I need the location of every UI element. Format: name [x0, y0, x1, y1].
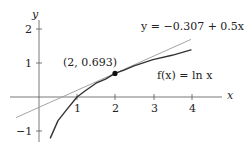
x-axis-label: x [227, 89, 234, 102]
tangent-equation-label: y = −0.307 + 0.5x [140, 20, 245, 33]
curve-label: f(x) = ln x [157, 69, 213, 82]
tangent-line-chart: 1 2 3 4 2 1 −1 x y (2, 0.693) y = −0.307… [0, 0, 246, 146]
x-tick-label-3: 3 [151, 102, 158, 115]
y-tick-label-2: 2 [25, 23, 32, 36]
y-tick-label-1: 1 [25, 57, 32, 70]
x-tick-label-1: 1 [74, 102, 81, 115]
point-label: (2, 0.693) [63, 56, 117, 69]
y-axis-label: y [31, 8, 39, 21]
x-tick-label-4: 4 [189, 102, 196, 115]
x-tick-label-2: 2 [112, 102, 119, 115]
y-tick-label-minus-1: −1 [16, 125, 32, 138]
tangent-point-marker [112, 71, 117, 76]
